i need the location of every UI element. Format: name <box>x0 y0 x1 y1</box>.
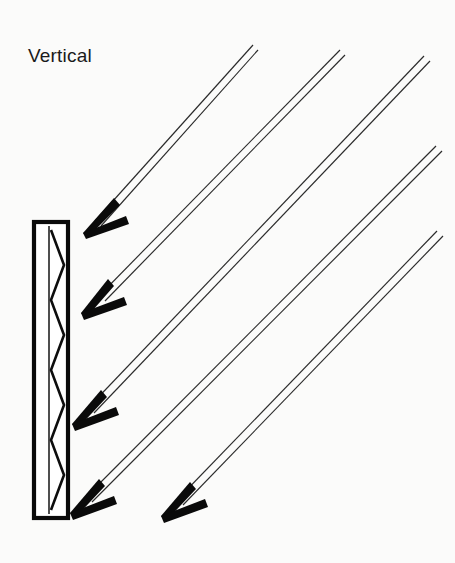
vertical-incidence-figure: Vertical <box>0 0 455 563</box>
diagram-root: Vertical <box>0 0 455 563</box>
orientation-label: Vertical <box>28 45 92 66</box>
vertical-glazing-panel <box>34 222 68 518</box>
